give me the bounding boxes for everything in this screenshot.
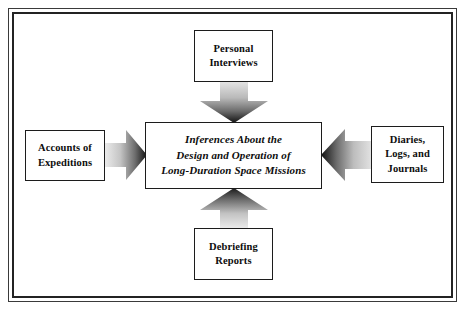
arrow-right-to-center-icon bbox=[320, 128, 373, 182]
source-node-debriefing-reports[interactable]: Debriefing Reports bbox=[194, 228, 273, 280]
source-node-personal-interviews[interactable]: Personal Interviews bbox=[194, 30, 273, 82]
arrow-top-to-center-icon bbox=[198, 81, 270, 124]
arrow-left-to-center-icon bbox=[104, 129, 148, 182]
source-node-label: Debriefing Reports bbox=[209, 240, 258, 268]
diagram-canvas: Personal Interviews Accounts of Expediti… bbox=[0, 0, 465, 310]
center-node-inferences[interactable]: Inferences About the Design and Operatio… bbox=[145, 122, 322, 189]
center-node-label: Inferences About the Design and Operatio… bbox=[161, 132, 306, 180]
source-node-diaries-logs-journals[interactable]: Diaries, Logs, and Journals bbox=[371, 126, 444, 183]
arrow-bottom-to-center-icon bbox=[198, 187, 270, 230]
source-node-label: Diaries, Logs, and Journals bbox=[385, 133, 430, 175]
source-node-label: Accounts of Expeditions bbox=[38, 141, 92, 169]
source-node-label: Personal Interviews bbox=[209, 42, 257, 70]
source-node-accounts-of-expeditions[interactable]: Accounts of Expeditions bbox=[25, 130, 105, 181]
